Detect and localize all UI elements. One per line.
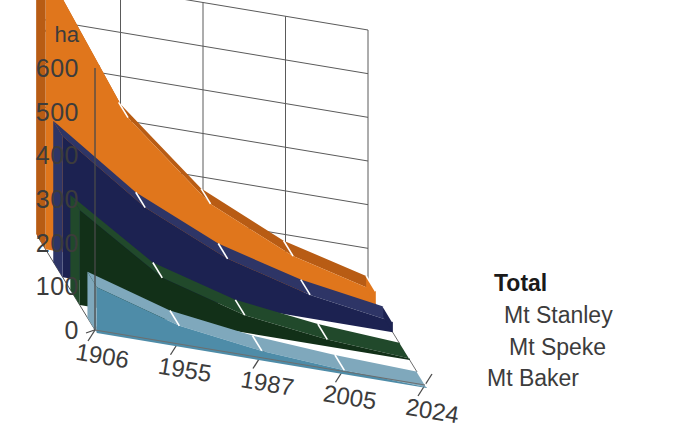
y-axis-tick-label: 300 <box>36 185 79 213</box>
x-axis-tick-label: 1906 <box>74 338 131 373</box>
series-legend: TotalMt StanleyMt SpekeMt Baker <box>487 270 613 391</box>
y-axis-unit-label: ha <box>55 22 80 47</box>
y-axis-tick-label: 400 <box>36 141 79 169</box>
chart-3d-area: 6005004003002001000ha 190619551987200520… <box>0 0 691 441</box>
x-axis-tick-label: 1955 <box>156 352 213 387</box>
y-axis-tick-label: 600 <box>36 54 79 82</box>
y-axis-tick-label: 0 <box>65 316 79 344</box>
legend-item-total: Total <box>494 270 547 296</box>
y-axis-tick-label: 100 <box>36 272 79 300</box>
y-axis-tick-label: 500 <box>36 98 79 126</box>
chart-canvas: 6005004003002001000ha 190619551987200520… <box>0 0 691 441</box>
x-axis-tick-label: 1987 <box>239 365 296 400</box>
x-axis-tick-label: 2005 <box>321 379 378 414</box>
x-axis-tick-label: 2024 <box>404 393 461 428</box>
legend-item-mt-speke: Mt Speke <box>509 334 606 360</box>
legend-item-mt-stanley: Mt Stanley <box>504 302 613 328</box>
legend-item-mt-baker: Mt Baker <box>487 365 579 391</box>
y-axis-tick-label: 200 <box>36 229 79 257</box>
